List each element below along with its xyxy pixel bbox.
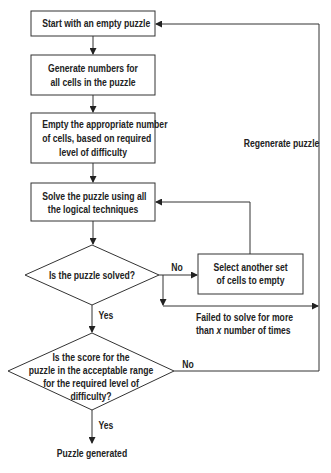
failed-label-line2: than x number of times (196, 324, 286, 337)
solved-question-label: Is the puzzle solved? (37, 269, 147, 282)
select-label-line1: Select another set (207, 261, 293, 274)
select-label-line2: of cells to empty (207, 274, 293, 287)
generate-label-line2: all cells in the puzzle (42, 76, 144, 89)
empty-label-line1: Empty the appropriate number (42, 118, 144, 131)
score-label-line1: Is the score for the (23, 351, 159, 364)
regenerate-label: Regenerate puzzle (244, 137, 315, 150)
no-label-2: No (178, 358, 198, 371)
failed-pre: than (196, 324, 217, 336)
failed-post: number of times (221, 324, 290, 336)
end-label: Puzzle generated (51, 447, 133, 460)
empty-label-line3: level of difficulty (42, 146, 144, 159)
start-label: Start with an empty puzzle (42, 17, 144, 30)
no-label-1: No (167, 261, 187, 274)
arrow-select-back-to-solve (156, 202, 250, 254)
empty-label-line2: of cells, based on required (42, 132, 144, 145)
score-label-line2: puzzle in the acceptable range (23, 364, 159, 377)
generate-label-line1: Generate numbers for (42, 62, 144, 75)
yes-label-1: Yes (96, 309, 116, 322)
yes-label-2: Yes (96, 419, 116, 432)
score-label-line3: for the required level of (23, 377, 159, 390)
failed-label-line1: Failed to solve for more (196, 311, 286, 324)
solve-label-line2: the logical techniques (42, 203, 144, 216)
score-label-line4: difficulty? (23, 390, 159, 403)
solve-label-line1: Solve the puzzle using all (42, 190, 144, 203)
generate-box (31, 55, 155, 95)
